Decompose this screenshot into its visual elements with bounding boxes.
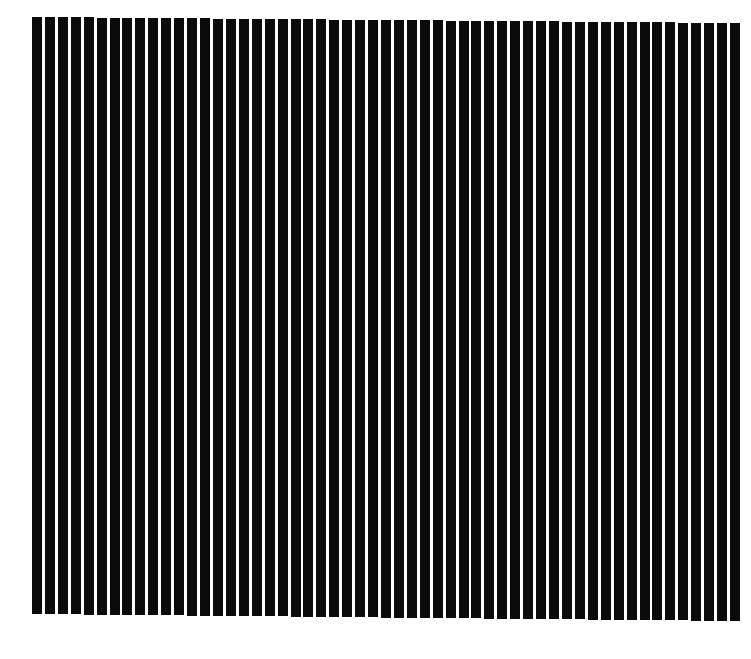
stripe-bar [562, 22, 572, 620]
stripe-bar [303, 19, 313, 616]
stripe-bar [342, 20, 352, 617]
stripe-bar [226, 19, 236, 616]
stripe-bar [135, 18, 145, 615]
stripe-bar [110, 18, 120, 615]
stripe-bar [84, 17, 94, 614]
stripe-bar [549, 21, 559, 619]
stripe-bar [730, 23, 740, 621]
stripe-bar [200, 18, 210, 615]
stripe-bar [433, 20, 443, 618]
stripe-bar [691, 23, 701, 621]
stripe-bar [407, 20, 417, 618]
stripe-bar [575, 22, 585, 620]
stripe-bar [122, 18, 132, 615]
stripe-bar [497, 21, 507, 619]
stripe-bar [627, 22, 637, 620]
stripe-bar [510, 21, 520, 619]
stripe-bar [58, 17, 68, 614]
stripe-bar [652, 22, 662, 620]
stripe-bar [640, 22, 650, 620]
stripe-bar [678, 23, 688, 621]
stripe-bar [394, 20, 404, 618]
stripe-bar [471, 21, 481, 619]
stripe-bar [601, 22, 611, 620]
stripe-bar [161, 18, 171, 615]
stripe-bar [368, 20, 378, 617]
stripe-bar [148, 18, 158, 615]
stripe-bar [355, 20, 365, 617]
stripe-bar [329, 20, 339, 617]
stripe-bar [291, 19, 301, 616]
stripe-bar [614, 22, 624, 620]
stripe-bar [316, 19, 326, 616]
stripe-bar [446, 21, 456, 619]
stripe-bar [32, 17, 42, 614]
stripe-bar [523, 21, 533, 619]
stripe-bar [420, 20, 430, 618]
stripe-bar [213, 19, 223, 616]
stripe-bar [588, 22, 598, 620]
stripe-bar [252, 19, 262, 616]
stripe-bar [484, 21, 494, 619]
stripe-grating [0, 0, 751, 659]
stripe-bar [536, 21, 546, 619]
stripe-bar [174, 18, 184, 615]
stripe-bar [97, 18, 107, 615]
stripe-bar [459, 21, 469, 619]
stripe-bar [381, 20, 391, 618]
stripe-bar [665, 22, 675, 620]
stripe-bar [71, 17, 81, 614]
stripe-bar [239, 19, 249, 616]
stripe-bar [187, 18, 197, 615]
stripe-bar [717, 23, 727, 621]
stripe-bar [704, 23, 714, 621]
stripe-bar [45, 17, 55, 614]
stripe-bar [265, 19, 275, 616]
stripe-bar [278, 19, 288, 616]
